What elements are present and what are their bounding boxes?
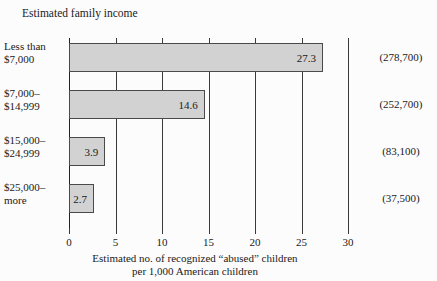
y-axis-title: Estimated family income	[22, 6, 162, 20]
tick-stub-20	[255, 228, 256, 234]
gridline-30	[348, 38, 349, 228]
annotation-2: (83,100)	[365, 146, 437, 157]
tick-stub-15	[209, 228, 210, 234]
category-label-1: $7,000– $14,999	[4, 87, 66, 112]
annotation-0: (278,700)	[365, 52, 437, 63]
x-tick-label-10: 10	[147, 236, 177, 248]
bar-1: 14.6	[69, 90, 205, 119]
annotation-group: (278,700) (252,700) (83,100) (37,500)	[365, 38, 437, 228]
x-tick-label-0: 0	[54, 236, 84, 248]
x-tick-label-30: 30	[333, 236, 363, 248]
bar-value-1: 14.6	[179, 99, 198, 110]
x-tick-label-15: 15	[194, 236, 224, 248]
bar-0: 27.3	[69, 43, 323, 72]
annotation-1: (252,700)	[365, 99, 437, 110]
tick-stub-0	[69, 228, 70, 234]
category-label-group: Less than $7,000 $7,000– $14,999 $15,000…	[4, 38, 66, 228]
x-axis-caption: Estimated no. of recognized “abused” chi…	[30, 252, 360, 278]
annotation-3: (37,500)	[365, 193, 437, 204]
bar-value-3: 2.7	[73, 193, 87, 204]
bar-chart-figure: Estimated family income Less than $7,000…	[0, 0, 437, 281]
category-label-2: $15,000– $24,999	[4, 134, 66, 159]
plot-area: 27.3 14.6 3.9 2.7 0 5 10 15 20 25 30	[69, 38, 348, 228]
tick-stub-30	[348, 228, 349, 234]
x-tick-label-5: 5	[101, 236, 131, 248]
bar-2: 3.9	[69, 137, 105, 166]
tick-stub-25	[302, 228, 303, 234]
category-label-3: $25,000– more	[4, 181, 66, 206]
x-tick-label-25: 25	[287, 236, 317, 248]
bar-value-2: 3.9	[85, 146, 99, 157]
tick-stub-10	[162, 228, 163, 234]
x-tick-label-20: 20	[240, 236, 270, 248]
tick-stub-5	[116, 228, 117, 234]
bar-3: 2.7	[69, 184, 94, 213]
bar-value-0: 27.3	[297, 52, 316, 63]
category-label-0: Less than $7,000	[4, 40, 66, 65]
